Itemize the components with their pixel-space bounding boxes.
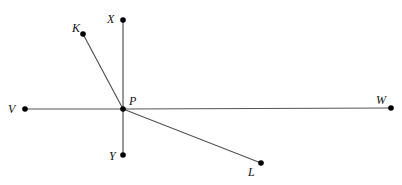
label-W: W (376, 93, 387, 107)
label-Y: Y (109, 149, 117, 163)
geometry-diagram: X K P V W Y L (0, 0, 402, 185)
label-V: V (8, 102, 17, 116)
label-P: P (128, 94, 137, 108)
point-W (388, 105, 394, 111)
label-L: L (247, 165, 255, 179)
point-L (258, 160, 264, 166)
point-X (120, 17, 126, 23)
segment-PL (123, 109, 261, 163)
segment-PK (83, 34, 123, 109)
point-V (22, 106, 28, 112)
point-P (120, 106, 126, 112)
point-Y (120, 152, 126, 158)
point-K (80, 31, 86, 37)
label-K: K (71, 21, 81, 35)
segment-PW (123, 108, 391, 109)
label-X: X (106, 12, 115, 26)
